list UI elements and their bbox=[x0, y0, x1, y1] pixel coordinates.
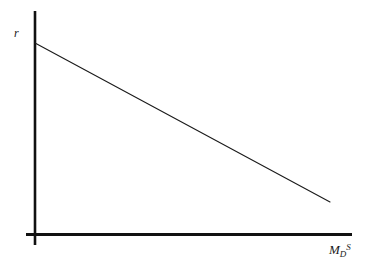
chart-canvas bbox=[0, 0, 368, 267]
money-demand-figure: r MDS bbox=[0, 0, 368, 267]
x-axis-label-superscript: S bbox=[346, 242, 351, 252]
y-axis-label: r bbox=[14, 27, 19, 39]
chart-background bbox=[0, 0, 368, 267]
x-axis-label-base: M bbox=[329, 242, 340, 257]
x-axis-label: MDS bbox=[329, 243, 351, 259]
